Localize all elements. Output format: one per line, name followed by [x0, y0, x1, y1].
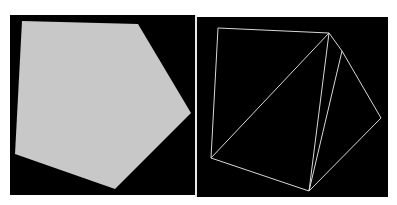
edge-FE — [211, 158, 309, 191]
filled-pentagon — [10, 15, 195, 195]
edge-BC — [329, 33, 342, 51]
edge-AF — [211, 28, 218, 158]
edge-AB — [218, 28, 329, 33]
triangulated-wireframe — [197, 17, 388, 197]
pentagon-shape — [15, 21, 191, 189]
edge-BF — [211, 33, 329, 158]
filled-pentagon-panel — [10, 15, 195, 195]
edge-CD — [342, 51, 381, 118]
edge-DE — [309, 118, 381, 191]
edge-CE — [309, 51, 342, 191]
wireframe-panel — [197, 17, 388, 197]
edge-BE — [309, 33, 329, 191]
